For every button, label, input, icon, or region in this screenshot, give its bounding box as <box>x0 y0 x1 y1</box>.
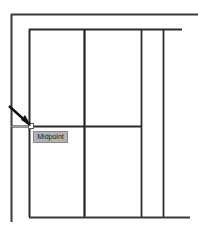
drawing-geometry <box>0 0 198 233</box>
midpoint-snap-tooltip-label: Midpoint <box>37 133 63 141</box>
cad-drawing-canvas[interactable]: Midpoint <box>0 0 198 233</box>
midpoint-snap-tooltip: Midpoint <box>33 131 68 143</box>
